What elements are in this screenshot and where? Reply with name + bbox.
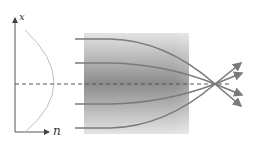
n-axis-label: n — [53, 124, 61, 138]
parabolic-index-curve — [25, 30, 54, 132]
x-axis-label: x — [19, 11, 25, 22]
grin-lens-diagram — [0, 0, 256, 148]
index-profile-plot — [15, 18, 54, 132]
